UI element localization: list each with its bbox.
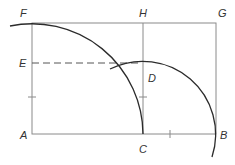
golden-rectangle-diagram: F H G E D A C B bbox=[0, 0, 235, 165]
label-f: F bbox=[20, 7, 28, 19]
label-b: B bbox=[220, 129, 227, 141]
rectangle-afgb bbox=[32, 23, 216, 134]
label-a: A bbox=[19, 129, 27, 141]
arc-fc bbox=[10, 24, 143, 134]
label-d: D bbox=[148, 72, 156, 84]
label-c: C bbox=[139, 143, 147, 155]
label-h: H bbox=[139, 7, 147, 19]
label-g: G bbox=[218, 7, 227, 19]
label-e: E bbox=[19, 57, 27, 69]
